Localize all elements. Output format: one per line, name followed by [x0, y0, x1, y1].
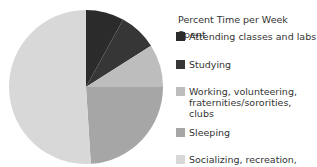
- legend-title: Percent Time per Week Spent: [178, 12, 317, 27]
- swatch-socializing: [176, 155, 185, 164]
- legend-label: Sleeping: [189, 127, 230, 138]
- legend-item-attending: Attending classes and labs: [176, 31, 316, 42]
- swatch-sleeping: [176, 128, 185, 137]
- legend-item-socializing: Socializing, recreation, other: [176, 154, 317, 167]
- legend: Percent Time per Week Spent Attending cl…: [176, 12, 317, 27]
- legend-label-line2: fraternities/sororities, clubs: [189, 97, 317, 119]
- legend-label: Working, volunteering,: [189, 86, 317, 97]
- pie-chart: [0, 0, 170, 167]
- pie-slice-sleeping: [86, 87, 163, 164]
- swatch-attending: [176, 32, 185, 41]
- legend-label: Socializing, recreation, other: [189, 154, 317, 167]
- pie-slice-socializing: [9, 10, 91, 164]
- swatch-studying: [176, 60, 185, 69]
- swatch-working: [176, 87, 185, 96]
- legend-label: Attending classes and labs: [189, 31, 316, 42]
- legend-item-studying: Studying: [176, 59, 231, 70]
- legend-item-sleeping: Sleeping: [176, 127, 230, 138]
- legend-label: Studying: [189, 59, 231, 70]
- legend-item-working: Working, volunteering, fraternities/soro…: [176, 86, 317, 119]
